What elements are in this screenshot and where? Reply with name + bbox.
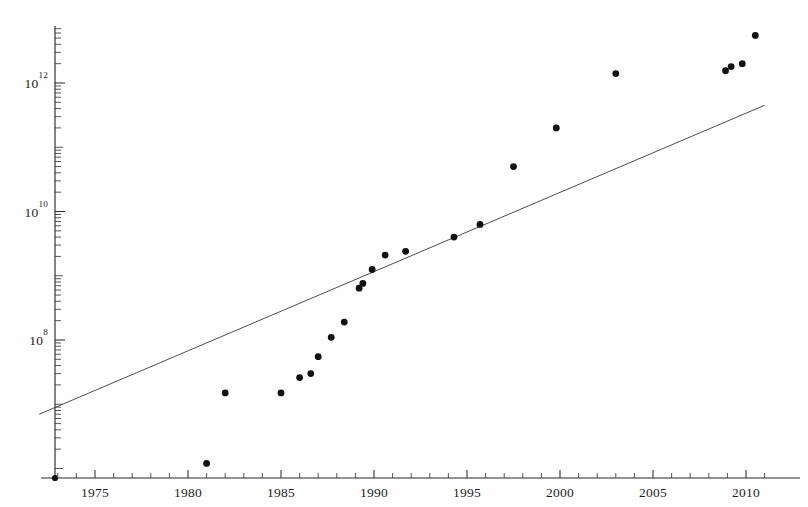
data-point xyxy=(296,374,303,381)
x-axis-tick-labels: 19751980198519901995200020052010 xyxy=(81,485,760,500)
y-axis-tick-labels: 10810101012 xyxy=(25,70,49,348)
x-tick-label: 1990 xyxy=(360,485,388,500)
data-point xyxy=(382,252,389,259)
x-tick-label: 2005 xyxy=(639,485,667,500)
data-point xyxy=(341,319,348,326)
y-axis-ticks xyxy=(55,29,65,469)
scatter-plot-svg: 19751980198519901995200020052010 1081010… xyxy=(0,0,808,507)
data-point xyxy=(222,390,229,397)
data-points-group xyxy=(203,32,758,467)
data-point xyxy=(612,70,619,77)
data-point xyxy=(477,221,484,228)
trend-line-group xyxy=(39,105,764,414)
data-point xyxy=(328,334,335,341)
trend-line xyxy=(39,105,764,414)
data-point xyxy=(278,390,285,397)
data-point xyxy=(359,280,366,287)
x-tick-label: 2000 xyxy=(546,485,574,500)
data-point xyxy=(203,460,210,467)
x-tick-label: 1985 xyxy=(267,485,295,500)
x-tick-label: 1995 xyxy=(453,485,481,500)
data-point xyxy=(315,353,322,360)
x-axis-ticks xyxy=(58,470,765,478)
origin-marker xyxy=(52,475,58,481)
data-point xyxy=(752,32,759,39)
x-tick-label: 1975 xyxy=(81,485,109,500)
y-tick-label: 1012 xyxy=(25,70,49,91)
data-point xyxy=(402,248,409,255)
chart-figure: 19751980198519901995200020052010 1081010… xyxy=(0,0,808,507)
y-tick-label: 1010 xyxy=(25,199,49,220)
data-point xyxy=(510,163,517,170)
x-tick-label: 1980 xyxy=(174,485,202,500)
data-point xyxy=(451,234,458,241)
data-point xyxy=(728,63,735,70)
data-point xyxy=(307,370,314,377)
x-tick-label: 2010 xyxy=(732,485,760,500)
data-point xyxy=(722,67,729,74)
data-point xyxy=(739,60,746,67)
axes-group xyxy=(41,26,800,481)
data-point xyxy=(553,125,560,132)
y-tick-label: 108 xyxy=(29,327,48,348)
data-point xyxy=(369,266,376,273)
